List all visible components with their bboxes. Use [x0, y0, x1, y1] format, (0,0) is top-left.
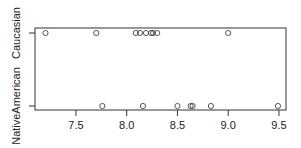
strip-chart: 7.58.08.59.09.5 NativeAmericanCaucasian	[0, 0, 301, 148]
data-point	[143, 30, 148, 35]
x-tick-label: 9.0	[221, 119, 236, 131]
data-point	[275, 103, 280, 108]
x-tick-label: 9.5	[271, 119, 286, 131]
data-point	[140, 103, 145, 108]
y-tick-label: Caucasian	[10, 7, 22, 59]
data-point	[175, 103, 180, 108]
data-point	[100, 103, 105, 108]
x-tick-label: 7.5	[68, 119, 83, 131]
data-point	[208, 103, 213, 108]
data-point	[43, 30, 48, 35]
data-point	[226, 30, 231, 35]
x-axis: 7.58.08.59.09.5	[68, 110, 286, 131]
x-tick-label: 8.0	[119, 119, 134, 131]
y-axis: NativeAmericanCaucasian	[10, 7, 35, 145]
y-tick-label: NativeAmerican	[10, 67, 22, 145]
x-tick-label: 8.5	[170, 119, 185, 131]
data-points	[43, 30, 281, 108]
plot-frame	[35, 28, 286, 110]
data-point	[94, 30, 99, 35]
